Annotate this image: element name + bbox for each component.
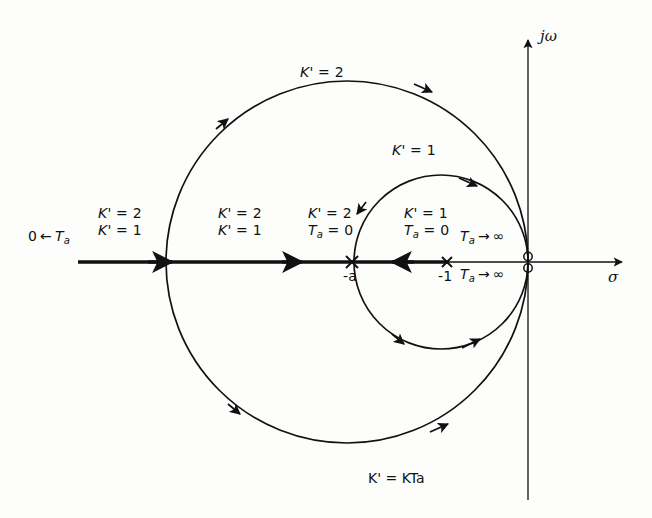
Ta-to-zero-subscript: a (64, 235, 70, 246)
outer-circle-arrowheads (216, 84, 448, 432)
inner-curve-k-value: = 1 (410, 142, 436, 158)
arrow-outer-lower-right (430, 424, 448, 432)
minus-a-line1: K' = 2 (308, 205, 353, 222)
minus-one-t-value: = 0 (424, 222, 450, 238)
minus-one-t-symbol: T (404, 222, 413, 238)
left-segment-line2: K' = 1 (98, 222, 142, 239)
mid-segment-k1-value: = 2 (236, 205, 262, 221)
arrow-inner-lower-right (462, 339, 480, 348)
left-segment-line1: K' = 2 (98, 205, 142, 222)
annotation-Ta-to-infinity-upper: Ta→∞ (460, 228, 505, 246)
annotation-Ta-to-infinity-lower: Ta→∞ (460, 266, 505, 284)
right-arrow-icon-upper: → (478, 228, 490, 244)
minus-one-k-symbol: K' (404, 205, 417, 221)
annotation-outer-curve-gain: K' = 2 (300, 64, 344, 80)
annotation-Ta-to-zero: 0←Ta (28, 228, 70, 246)
arrow-inner-upper-left (357, 202, 366, 214)
mid-segment-k1-symbol: K' (218, 205, 231, 221)
inner-curve-k-symbol: K' (392, 142, 405, 158)
Ta-inf-upper-subscript: a (469, 235, 475, 246)
caption-k-symbol: K' (368, 470, 381, 486)
figure-caption: K' = KTa (368, 470, 425, 486)
Ta-inf-lower-symbol: T (460, 266, 469, 282)
annotation-at-minus-a: K' = 2 Ta = 0 (308, 205, 353, 240)
mid-segment-line2: K' = 1 (218, 222, 262, 239)
jomega-axis-label: jω (540, 27, 557, 45)
pole-label-minus-a: -a (343, 268, 357, 284)
left-segment-k1-value: = 2 (116, 205, 142, 221)
minus-one-k-value: = 1 (422, 205, 448, 221)
minus-one-line1: K' = 1 (404, 205, 449, 222)
mid-segment-line1: K' = 2 (218, 205, 262, 222)
arrow-outer-upper-right (414, 84, 432, 92)
minus-a-k-value: = 2 (326, 205, 352, 221)
minus-a-t-subscript: a (317, 228, 323, 239)
annotation-mid-segment-gains: K' = 2 K' = 1 (218, 205, 262, 238)
sigma-axis-label: σ (608, 268, 618, 286)
left-segment-k2-symbol: K' (98, 222, 111, 238)
pole-label-minus-one: -1 (438, 268, 452, 284)
annotation-at-minus-one: K' = 1 Ta = 0 (404, 205, 449, 240)
caption-equals: = (385, 470, 397, 486)
left-arrow-icon: ← (40, 228, 52, 244)
Ta-inf-upper-value: ∞ (493, 228, 505, 244)
figure-root: jω σ 0←Ta K' = 2 K' = 1 K' = 2 K' = 1 K'… (0, 0, 652, 518)
outer-curve-k-symbol: K' (300, 64, 313, 80)
left-segment-k2-value: = 1 (116, 222, 142, 238)
arrow-outer-lower-left (228, 404, 240, 414)
minus-one-t-subscript: a (413, 228, 419, 239)
Ta-to-zero-value: 0 (28, 228, 37, 244)
minus-a-t-value: = 0 (328, 222, 354, 238)
outer-curve-k-value: = 2 (318, 64, 344, 80)
caption-subscript: a (416, 470, 425, 486)
caption-kt-symbol: KT (402, 470, 416, 486)
Ta-inf-upper-symbol: T (460, 228, 469, 244)
Ta-inf-lower-value: ∞ (493, 266, 505, 282)
Ta-to-zero-symbol: T (55, 228, 64, 244)
minus-a-k-symbol: K' (308, 205, 321, 221)
annotation-left-segment-gains: K' = 2 K' = 1 (98, 205, 142, 238)
minus-a-t-symbol: T (308, 222, 317, 238)
mid-segment-k2-value: = 1 (236, 222, 262, 238)
mid-segment-k2-symbol: K' (218, 222, 231, 238)
minus-a-line2: Ta = 0 (308, 222, 353, 240)
annotation-inner-curve-gain: K' = 1 (392, 142, 436, 158)
Ta-inf-lower-subscript: a (469, 273, 475, 284)
minus-one-line2: Ta = 0 (404, 222, 449, 240)
left-segment-k1-symbol: K' (98, 205, 111, 221)
right-arrow-icon-lower: → (478, 266, 490, 282)
